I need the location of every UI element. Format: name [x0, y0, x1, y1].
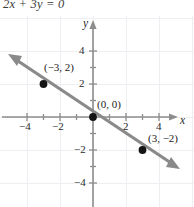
y-tick-label-4: 4 [79, 44, 85, 56]
y-tick-label-neg4: −4 [74, 176, 86, 188]
y-tick-label-neg2: −2 [74, 143, 86, 155]
point-label-neg3-2: (−3, 2) [44, 61, 74, 73]
y-tick-label-2: 2 [79, 77, 85, 89]
x-tick-label-neg2: −2 [52, 120, 64, 132]
x-axis-label: x [180, 114, 185, 126]
graph-figure: 2x + 3y = 0 x y −4 −2 2 4 4 2 −2 −4 (−3,… [0, 0, 194, 207]
point-label-3-neg2: (3, −2) [148, 132, 178, 144]
x-tick-label-2: 2 [123, 120, 129, 132]
point-marker [89, 113, 97, 121]
x-tick-label-4: 4 [156, 120, 162, 132]
point-marker [139, 146, 147, 154]
x-tick-label-neg4: −4 [19, 120, 31, 132]
y-axis-label: y [83, 17, 88, 29]
point-label-origin: (0, 0) [97, 98, 121, 110]
equation-label: 2x + 3y = 0 [3, 0, 64, 12]
point-marker [40, 80, 48, 88]
plotted-line [8, 54, 180, 169]
